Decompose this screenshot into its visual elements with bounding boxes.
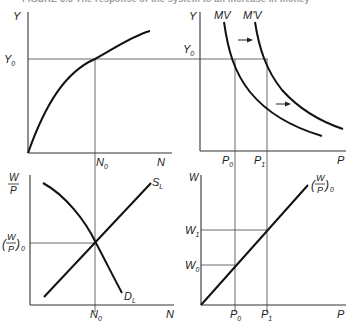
p1-tick-label: P1 [254,154,265,168]
labor-demand-curve [43,183,122,293]
n0-tick-label: N0 [96,156,108,170]
panel-aggregate-demand: Y MV M'V Y0 P0 P1 P [183,9,346,312]
p0-tick-label: P0 [222,154,233,168]
real-wage-line-label: ( W P ) 0 [311,173,334,195]
panel-labor-market: W P ( W P ) 0 SL DL N0 N [2,172,174,322]
n0-tick-label: N0 [90,308,102,322]
panel-wage-price: W W1 W0 ( W P ) 0 P0 P1 P [185,172,346,322]
x-axis-label: P [337,308,345,320]
svg-text:P: P [8,244,14,254]
svg-text:P: P [10,185,17,196]
m-prime-v-label: M'V [243,9,263,21]
p0-tick-label: P0 [230,308,241,322]
mv-label: MV [214,9,232,21]
y-axis-label: Y [13,10,21,22]
y-axis-label: Y [189,10,197,22]
four-quadrant-diagram: FIGURE 8.8 The response of the system to… [0,0,351,322]
x-axis-label: P [337,154,345,166]
production-curve [28,31,150,153]
svg-text:P: P [317,185,323,195]
y0-tick-label: Y0 [4,53,15,67]
y-axis-label: W P [8,172,20,196]
svg-text:0: 0 [330,186,334,193]
supply-label: SL [152,176,163,190]
w-p0-tick-label: ( W P ) 0 [2,232,25,254]
y0-tick-label: Y0 [183,43,194,57]
figure-caption: FIGURE 8.8 The response of the system to… [22,0,310,4]
diagram-canvas: Y Y0 N0 N Y MV M'V Y0 P [0,0,351,322]
m-prime-v-curve [255,22,343,129]
demand-label: DL [124,290,136,304]
w0-tick-label: W0 [185,259,199,273]
shift-arrow-icon [276,102,291,107]
shift-arrow-icon [238,38,253,43]
real-wage-line [201,185,308,305]
x-axis-label: N [157,156,165,168]
labor-supply-curve [44,183,151,297]
p1-tick-label: P1 [261,308,272,322]
svg-text:0: 0 [21,245,25,252]
svg-text:W: W [9,172,20,183]
y-axis-label: W [189,172,200,183]
w1-tick-label: W1 [185,224,199,238]
x-axis-label: N [166,308,174,320]
mv-curve [224,22,322,136]
